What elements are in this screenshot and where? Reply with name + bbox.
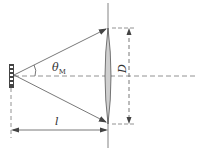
l-arrow-left-icon (11, 128, 19, 133)
diameter-label: D (117, 64, 128, 73)
l-arrow-right-icon (100, 128, 108, 133)
angle-arc-icon (34, 65, 36, 76)
d-arrow-bottom-icon (127, 117, 132, 124)
diagram-svg (0, 0, 199, 151)
theta-m-label: θM (52, 62, 66, 76)
d-arrow-top-icon (127, 28, 132, 35)
diagram-canvas: θM D l (0, 0, 199, 151)
point-source (9, 64, 14, 88)
ray-lower (14, 75, 106, 122)
distance-label: l (55, 116, 59, 127)
lens (105, 28, 111, 124)
